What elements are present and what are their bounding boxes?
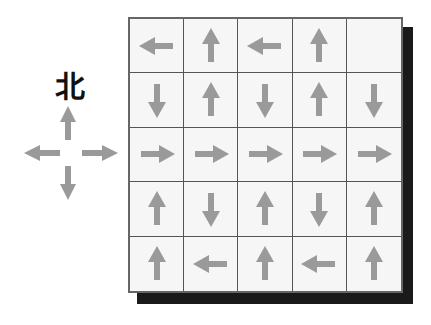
arrow-right-icon	[137, 134, 177, 174]
arrow-right-icon	[299, 134, 339, 174]
grid-cell[interactable]	[130, 128, 184, 182]
grid-cell[interactable]	[347, 128, 401, 182]
arrow-up-icon	[245, 189, 285, 229]
grid-cell[interactable]	[347, 182, 401, 236]
grid-cell[interactable]	[238, 128, 292, 182]
grid-cell[interactable]	[293, 73, 347, 127]
grid-cell[interactable]	[238, 19, 292, 73]
arrow-down-icon	[299, 189, 339, 229]
grid-cell[interactable]	[130, 237, 184, 291]
grid-cell[interactable]	[293, 19, 347, 73]
arrow-up-icon	[191, 80, 231, 120]
arrow-down-icon	[245, 80, 285, 120]
arrow-down-icon	[354, 80, 394, 120]
grid-cell[interactable]	[184, 73, 238, 127]
grid-cell[interactable]	[184, 19, 238, 73]
grid-cell[interactable]	[293, 128, 347, 182]
arrow-right-icon	[191, 134, 231, 174]
grid-cell[interactable]	[184, 128, 238, 182]
grid-cell[interactable]	[347, 237, 401, 291]
grid-cell[interactable]	[293, 182, 347, 236]
arrow-right-icon	[245, 134, 285, 174]
arrow-up-icon	[299, 26, 339, 66]
grid-cell[interactable]	[184, 237, 238, 291]
arrow-up-icon	[354, 244, 394, 284]
arrow-right-icon	[354, 134, 394, 174]
arrow-left-icon	[299, 244, 339, 284]
arrow-grid-board	[128, 17, 403, 293]
grid-cell[interactable]	[130, 182, 184, 236]
grid-cell[interactable]	[238, 73, 292, 127]
arrow-up-icon	[191, 26, 231, 66]
grid-cell[interactable]	[347, 19, 401, 73]
arrow-up-icon	[137, 189, 177, 229]
grid-cell[interactable]	[130, 73, 184, 127]
arrow-down-icon	[191, 189, 231, 229]
arrow-left-icon	[245, 26, 285, 66]
arrow-up-icon	[354, 189, 394, 229]
grid-cell[interactable]	[130, 19, 184, 73]
arrow-left-icon	[137, 26, 177, 66]
grid-cell[interactable]	[293, 237, 347, 291]
arrow-left-icon	[191, 244, 231, 284]
grid-cell[interactable]	[347, 73, 401, 127]
grid-cell[interactable]	[184, 182, 238, 236]
arrow-down-icon	[137, 80, 177, 120]
arrow-up-icon	[137, 244, 177, 284]
grid-cell[interactable]	[238, 182, 292, 236]
arrow-up-icon	[299, 80, 339, 120]
arrow-up-icon	[245, 244, 285, 284]
north-label: 北	[50, 72, 90, 102]
grid-cell[interactable]	[238, 237, 292, 291]
